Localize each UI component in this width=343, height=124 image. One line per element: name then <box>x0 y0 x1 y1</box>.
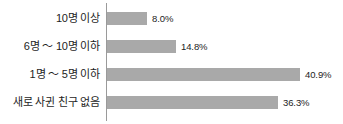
chart-row: 1명 ～ 5명 이하 40.9% <box>0 60 343 88</box>
chart-row: 새로 사귄 친구 없음 36.3% <box>0 88 343 116</box>
category-label-1: 6명 ～ 10명 이하 <box>24 32 100 60</box>
bar-group-0: 8.0% <box>107 4 173 32</box>
bar-value-label-1: 14.8% <box>181 40 207 53</box>
bar-group-1: 14.8% <box>107 32 207 60</box>
bar-value-label-3: 36.3% <box>283 96 309 109</box>
bar-2[interactable] <box>107 68 300 81</box>
category-label-2: 1명 ～ 5명 이하 <box>30 60 100 88</box>
bar-1[interactable] <box>107 40 176 53</box>
bar-value-label-0: 8.0% <box>152 12 173 25</box>
chart-row: 10명 이상 8.0% <box>0 4 343 32</box>
bar-3[interactable] <box>107 96 278 109</box>
bar-group-2: 40.9% <box>107 60 331 88</box>
bar-0[interactable] <box>107 12 147 25</box>
category-label-3: 새로 사귄 친구 없음 <box>13 88 100 116</box>
bar-group-3: 36.3% <box>107 88 309 116</box>
chart-row: 6명 ～ 10명 이하 14.8% <box>0 32 343 60</box>
bar-chart: 10명 이상 8.0% 6명 ～ 10명 이하 14.8% 1명 ～ 5명 이하… <box>0 0 343 124</box>
bar-value-label-2: 40.9% <box>305 68 331 81</box>
category-label-0: 10명 이상 <box>56 4 100 32</box>
plot-area: 10명 이상 8.0% 6명 ～ 10명 이하 14.8% 1명 ～ 5명 이하… <box>0 0 343 124</box>
